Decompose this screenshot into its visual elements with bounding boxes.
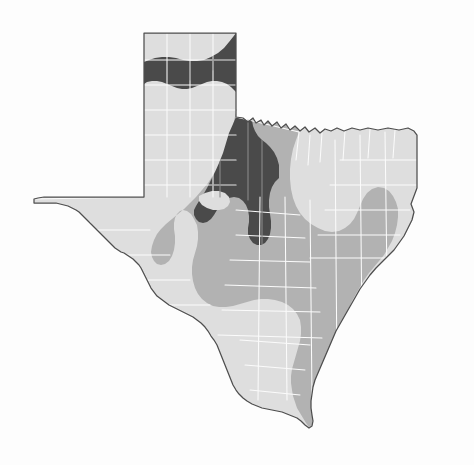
map-svg-canvas [0, 0, 474, 465]
texas-choropleth-map [0, 0, 474, 465]
